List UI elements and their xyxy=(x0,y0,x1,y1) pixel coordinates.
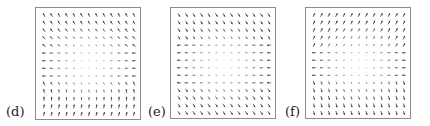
arrow-icon xyxy=(193,96,195,99)
arrow-icon xyxy=(351,44,352,46)
arrow-icon xyxy=(103,104,105,108)
arrow-icon xyxy=(402,59,406,61)
arrow-icon xyxy=(268,21,270,24)
arrow-icon xyxy=(88,68,89,69)
arrow-icon xyxy=(96,75,98,76)
arrow-icon xyxy=(216,36,217,38)
arrow-icon xyxy=(373,82,374,84)
arrow-icon xyxy=(320,59,323,61)
arrow-icon xyxy=(58,75,61,76)
arrow-icon xyxy=(110,60,112,61)
arrow-icon xyxy=(381,82,382,85)
arrow-icon xyxy=(358,52,360,53)
arrow-icon xyxy=(336,13,338,17)
arrow-icon xyxy=(396,13,398,17)
arrow-icon xyxy=(110,52,112,53)
arrow-icon xyxy=(351,75,353,76)
arrow-icon xyxy=(132,75,136,77)
arrow-icon xyxy=(335,60,337,61)
arrow-icon xyxy=(200,52,202,53)
arrow-icon xyxy=(208,44,211,45)
arrow-icon xyxy=(177,52,181,54)
arrow-icon xyxy=(43,29,45,32)
arrow-icon xyxy=(238,89,240,91)
arrow-icon xyxy=(268,104,270,107)
arrow-icon xyxy=(320,52,323,54)
arrow-icon xyxy=(246,89,248,92)
arrow-icon xyxy=(88,13,90,17)
arrow-icon xyxy=(238,104,240,107)
arrow-icon xyxy=(110,29,112,32)
arrow-icon xyxy=(103,21,105,24)
arrow-icon xyxy=(208,75,210,76)
arrow-icon xyxy=(200,67,202,68)
arrow-icon xyxy=(366,75,368,76)
arrow-icon xyxy=(193,75,196,76)
arrow-icon xyxy=(312,59,316,61)
arrow-icon xyxy=(260,89,262,92)
arrow-icon xyxy=(313,96,315,100)
arrow-icon xyxy=(208,36,210,39)
arrow-icon xyxy=(223,89,225,91)
arrow-icon xyxy=(178,104,180,107)
arrow-icon xyxy=(111,97,113,101)
arrow-icon xyxy=(268,96,270,99)
arrow-icon xyxy=(245,60,247,61)
arrow-icon xyxy=(373,89,374,92)
arrow-icon xyxy=(260,13,262,16)
arrow-icon xyxy=(65,60,67,61)
arrow-icon xyxy=(260,44,264,46)
arrow-icon xyxy=(238,67,240,68)
arrow-icon xyxy=(73,37,75,39)
arrow-icon xyxy=(81,37,83,39)
arrow-icon xyxy=(380,67,382,68)
arrow-icon xyxy=(50,97,52,101)
arrow-icon xyxy=(231,60,232,61)
arrow-icon xyxy=(118,37,120,40)
arrow-icon xyxy=(58,29,60,32)
arrow-icon xyxy=(336,111,338,115)
arrow-icon xyxy=(388,67,391,68)
arrow-icon xyxy=(373,67,375,68)
arrow-icon xyxy=(201,28,203,31)
plot-frame xyxy=(170,7,276,119)
arrow-icon xyxy=(358,60,359,61)
arrow-icon xyxy=(381,28,383,31)
arrow-icon xyxy=(328,21,330,25)
arrow-icon xyxy=(358,89,359,92)
arrow-icon xyxy=(118,68,121,69)
plot-frame xyxy=(35,7,141,120)
arrow-icon xyxy=(230,13,232,16)
arrow-icon xyxy=(388,111,390,115)
plot-frame xyxy=(305,7,411,119)
arrow-icon xyxy=(396,96,398,100)
arrow-icon xyxy=(216,89,218,91)
arrow-icon xyxy=(125,75,128,77)
arrow-icon xyxy=(313,28,315,32)
arrow-icon xyxy=(103,68,105,69)
arrow-icon xyxy=(373,13,375,17)
arrow-icon xyxy=(380,52,382,53)
arrow-icon xyxy=(403,43,405,47)
arrow-icon xyxy=(81,97,83,100)
arrow-icon xyxy=(268,111,270,114)
arrow-icon xyxy=(215,104,217,107)
arrow-icon xyxy=(125,97,127,101)
arrow-icon xyxy=(103,82,104,84)
arrow-icon xyxy=(351,82,352,84)
arrow-icon xyxy=(193,111,195,114)
arrow-icon xyxy=(208,104,210,107)
arrow-icon xyxy=(388,44,390,47)
arrow-icon xyxy=(312,74,316,76)
arrow-icon xyxy=(185,21,187,24)
arrow-icon xyxy=(252,82,255,84)
arrow-icon xyxy=(336,28,338,31)
arrow-icon xyxy=(253,21,255,24)
arrow-icon xyxy=(50,75,53,77)
arrow-icon xyxy=(208,52,210,53)
arrow-icon xyxy=(96,83,97,85)
arrow-icon xyxy=(81,112,83,116)
arrow-icon xyxy=(133,21,135,24)
arrow-icon xyxy=(185,13,187,16)
arrow-icon xyxy=(43,89,45,93)
